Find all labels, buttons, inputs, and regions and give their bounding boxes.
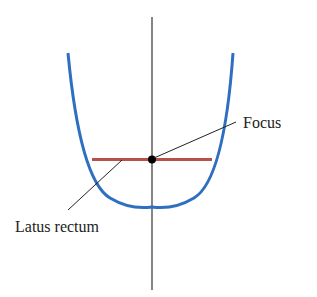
latus-rectum-label: Latus rectum: [15, 218, 99, 236]
parabola-diagram: [0, 0, 317, 297]
focus-point: [148, 156, 156, 164]
parabola-curve: [68, 53, 233, 208]
focus-leader-line: [154, 122, 236, 158]
focus-label: Focus: [243, 114, 281, 132]
latus-rectum-leader-line: [68, 160, 122, 210]
